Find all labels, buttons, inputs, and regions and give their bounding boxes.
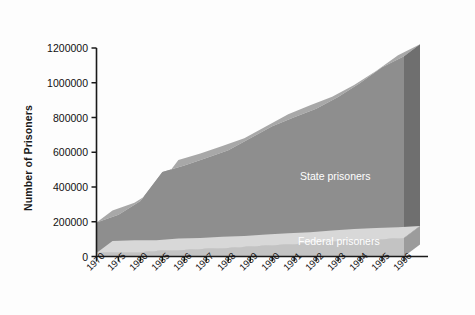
state-area-front [97, 56, 405, 253]
series-label-federal: Federal prisoners [298, 235, 380, 247]
series-label-state: State prisoners [300, 170, 371, 182]
prisoner-population-chart: Number of Prisoners 02000004000006000008… [0, 0, 475, 315]
state-area-side [404, 44, 420, 238]
